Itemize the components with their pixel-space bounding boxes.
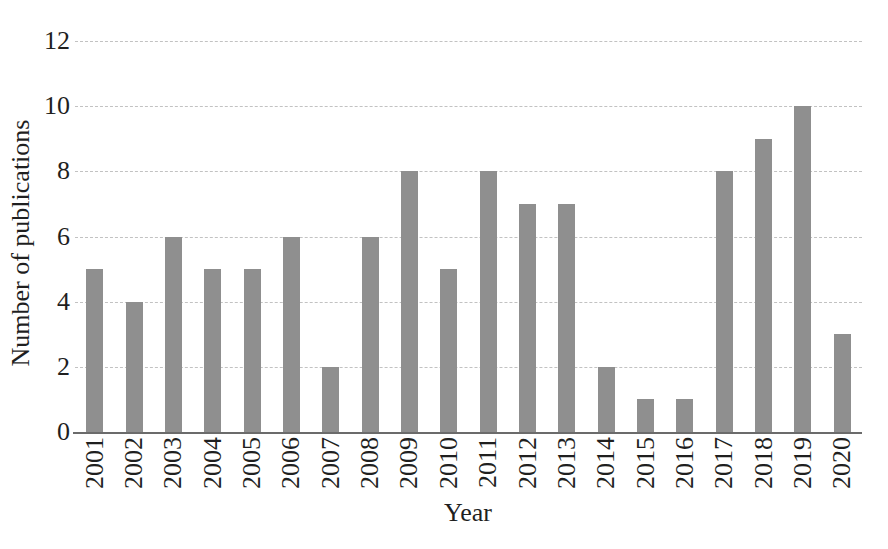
bar-2009: [401, 171, 418, 432]
x-tick-label-2014: 2014: [593, 437, 619, 497]
plot-area: 0246810122001200220032004200520062007200…: [0, 0, 888, 549]
y-tick-label-0: 0: [0, 419, 70, 445]
bar-2005: [244, 269, 261, 432]
x-tick-label-2010: 2010: [436, 437, 462, 497]
bar-2011: [480, 171, 497, 432]
bar-2001: [86, 269, 103, 432]
gridline-12: [75, 41, 862, 42]
bar-2004: [204, 269, 221, 432]
x-tick-label-2017: 2017: [711, 437, 737, 497]
x-tick-label-2013: 2013: [554, 437, 580, 497]
x-tick-label-2012: 2012: [515, 437, 541, 497]
bar-2015: [637, 399, 654, 432]
x-axis-title: Year: [368, 498, 568, 528]
x-axis-line: [73, 432, 862, 434]
gridline-8: [75, 171, 862, 172]
bar-2019: [794, 106, 811, 432]
x-tick-label-2001: 2001: [82, 437, 108, 497]
bar-2002: [126, 302, 143, 432]
x-tick-label-2016: 2016: [672, 437, 698, 497]
x-tick-label-2020: 2020: [829, 437, 855, 497]
publications-bar-chart: 0246810122001200220032004200520062007200…: [0, 0, 888, 549]
gridline-2: [75, 367, 862, 368]
gridline-4: [75, 302, 862, 303]
gridline-6: [75, 237, 862, 238]
bar-2016: [676, 399, 693, 432]
bar-2018: [755, 139, 772, 432]
y-axis-title: Number of publications: [7, 102, 35, 384]
bar-2017: [716, 171, 733, 432]
x-tick-label-2008: 2008: [357, 437, 383, 497]
x-tick-label-2004: 2004: [200, 437, 226, 497]
y-tick-label-12: 12: [0, 28, 70, 54]
x-tick-label-2007: 2007: [318, 437, 344, 497]
bar-2020: [834, 334, 851, 432]
bar-2007: [322, 367, 339, 432]
bar-2014: [598, 367, 615, 432]
bar-2012: [519, 204, 536, 432]
gridline-10: [75, 106, 862, 107]
x-tick-label-2009: 2009: [396, 437, 422, 497]
x-tick-label-2002: 2002: [121, 437, 147, 497]
x-tick-label-2006: 2006: [278, 437, 304, 497]
x-tick-label-2018: 2018: [751, 437, 777, 497]
x-tick-label-2003: 2003: [160, 437, 186, 497]
x-tick-label-2011: 2011: [475, 437, 501, 497]
bar-2010: [440, 269, 457, 432]
bar-2008: [362, 237, 379, 433]
bar-2003: [165, 237, 182, 433]
bar-2006: [283, 237, 300, 433]
x-tick-label-2005: 2005: [239, 437, 265, 497]
x-tick-label-2015: 2015: [633, 437, 659, 497]
x-tick-label-2019: 2019: [790, 437, 816, 497]
bar-2013: [558, 204, 575, 432]
